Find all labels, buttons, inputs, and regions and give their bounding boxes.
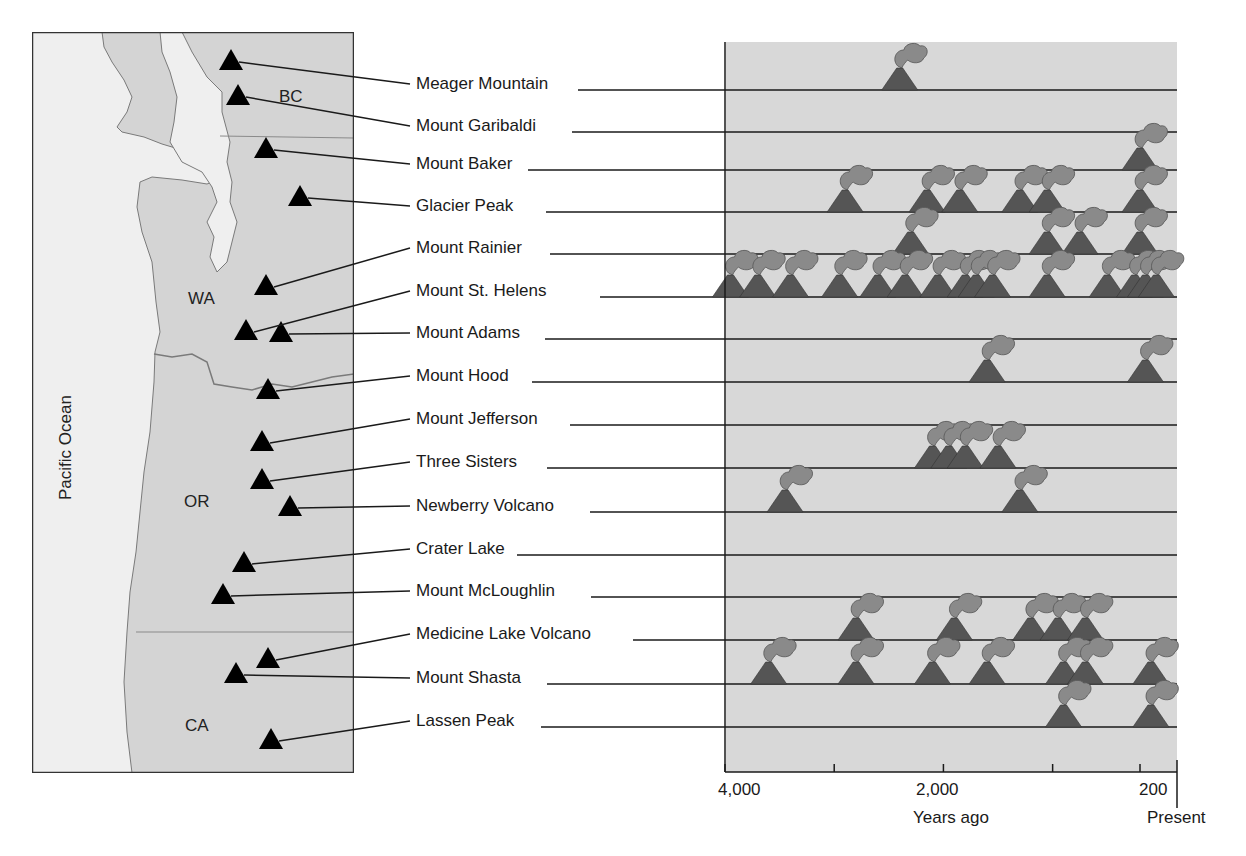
chart-background bbox=[726, 42, 1177, 772]
leader-line bbox=[279, 721, 410, 741]
leader-line bbox=[308, 198, 410, 206]
leader-line bbox=[254, 291, 410, 332]
leader-line bbox=[298, 506, 410, 508]
leader-line bbox=[246, 97, 410, 126]
leader-line bbox=[274, 248, 410, 287]
leader-line bbox=[270, 462, 410, 481]
leader-line bbox=[252, 549, 410, 564]
leader-line bbox=[289, 333, 410, 334]
leader-line bbox=[276, 376, 410, 391]
leader-line bbox=[270, 419, 410, 443]
leader-line bbox=[231, 591, 410, 596]
leader-line bbox=[244, 675, 410, 678]
eruption-timeline-chart bbox=[0, 0, 1246, 856]
leader-line bbox=[276, 634, 410, 660]
leader-line bbox=[274, 150, 410, 164]
leader-line bbox=[239, 62, 410, 84]
